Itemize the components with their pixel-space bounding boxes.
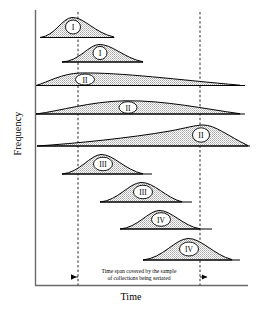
plot-area: I I II II II (0, 0, 257, 309)
svg-text:IV: IV (185, 245, 193, 254)
span-annotation-line1: Time span covered by the sample (72, 268, 206, 275)
seriation-frequency-figure: I I II II II (0, 0, 257, 309)
y-axis-label: Frequency (12, 89, 23, 179)
svg-text:IV: IV (157, 216, 165, 225)
curve-III-b: III (100, 182, 192, 202)
svg-text:II: II (198, 131, 204, 140)
svg-text:I: I (99, 49, 102, 58)
span-annotation-line2: of collections being seriated (72, 275, 206, 282)
svg-text:III: III (139, 188, 147, 197)
svg-text:I: I (72, 23, 75, 32)
axis-lines (35, 10, 248, 286)
curve-II-c: II (37, 125, 250, 146)
svg-text:II: II (83, 76, 88, 85)
curve-II-b: II (36, 101, 245, 114)
span-annotation: Time span covered by the sample of colle… (72, 268, 206, 282)
curve-IV-a: IV (120, 210, 212, 229)
x-axis-label: Time (36, 291, 226, 302)
curve-I-a: I (40, 17, 114, 37)
svg-text:III: III (99, 160, 107, 169)
curve-II-a: II (36, 73, 245, 86)
svg-text:II: II (126, 104, 131, 113)
curve-III-a: III (62, 154, 152, 174)
curve-IV-b: IV (143, 238, 240, 260)
curve-I-b: I (62, 44, 143, 62)
